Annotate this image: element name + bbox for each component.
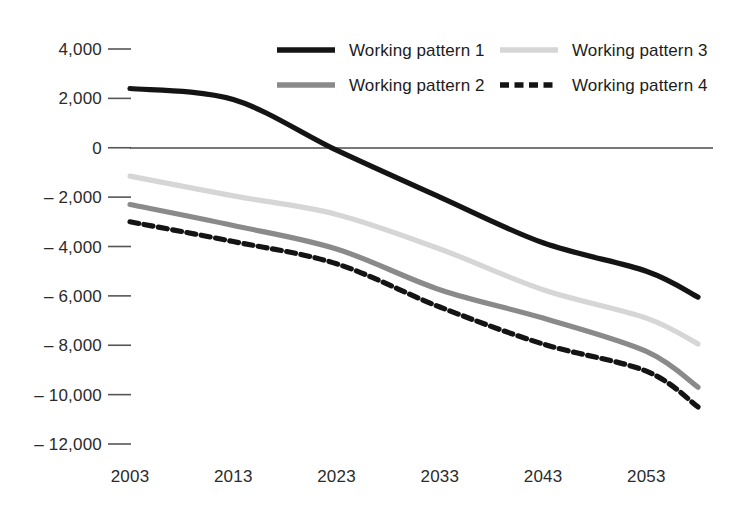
legend-label-1: Working pattern 1 [349,41,485,60]
y-axis-tick-marks [108,49,131,444]
data-series-group [130,89,698,407]
chart-canvas: 4,0002,0000– 2,000– 4,000– 6,000– 8,000–… [0,0,751,519]
x-tick-label: 2053 [627,467,666,486]
legend-label-2: Working pattern 2 [349,76,485,95]
x-axis-tick-labels: 200320132023203320432053 [111,467,666,486]
y-tick-label: 4,000 [58,40,102,59]
x-tick-label: 2023 [317,467,356,486]
y-tick-label: – 12,000 [34,435,102,454]
y-tick-label: – 4,000 [44,238,102,257]
y-axis-tick-labels: 4,0002,0000– 2,000– 4,000– 6,000– 8,000–… [34,40,102,454]
x-tick-label: 2013 [214,467,253,486]
y-tick-label: – 2,000 [44,188,102,207]
y-tick-label: 2,000 [58,89,102,108]
y-tick-label: – 8,000 [44,336,102,355]
line-chart: 4,0002,0000– 2,000– 4,000– 6,000– 8,000–… [0,0,751,519]
x-tick-label: 2033 [421,467,460,486]
x-tick-label: 2043 [524,467,563,486]
legend-label-4: Working pattern 4 [572,76,708,95]
y-tick-label: – 10,000 [34,386,102,405]
series-line-4 [130,222,698,407]
y-tick-label: 0 [92,139,102,158]
x-tick-label: 2003 [111,467,150,486]
y-tick-label: – 6,000 [44,287,102,306]
legend-label-3: Working pattern 3 [572,41,708,60]
chart-legend: Working pattern 1Working pattern 2Workin… [277,41,708,95]
